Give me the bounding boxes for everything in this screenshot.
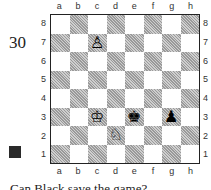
rank-label-4: 4 <box>203 93 208 103</box>
square-b2 <box>70 126 89 145</box>
file-label-g: g <box>163 1 182 11</box>
square-h1 <box>181 145 200 164</box>
square-f2 <box>144 126 163 145</box>
square-f1 <box>144 145 163 164</box>
square-h7 <box>181 34 200 53</box>
black-king-icon: ♚ <box>125 108 144 127</box>
square-h4 <box>181 89 200 108</box>
square-c4 <box>88 89 107 108</box>
square-a6 <box>51 52 70 71</box>
square-d3 <box>107 108 126 127</box>
square-e8 <box>125 15 144 34</box>
square-e4 <box>125 89 144 108</box>
file-label-a: a <box>50 166 69 176</box>
file-label-e: e <box>125 1 144 11</box>
file-label-h: h <box>181 166 200 176</box>
black-pawn-icon: ♟ <box>162 108 181 127</box>
square-e6 <box>125 52 144 71</box>
square-g8 <box>162 15 181 34</box>
square-f6 <box>144 52 163 71</box>
square-b8 <box>70 15 89 34</box>
square-b5 <box>70 71 89 90</box>
square-h8 <box>181 15 200 34</box>
square-b7 <box>70 34 89 53</box>
rank-label-2: 2 <box>203 131 208 141</box>
square-h3 <box>181 108 200 127</box>
file-label-g: g <box>163 166 182 176</box>
square-f8 <box>144 15 163 34</box>
square-d6 <box>107 52 126 71</box>
rank-label-8: 8 <box>41 18 46 28</box>
rank-label-7: 7 <box>41 37 46 47</box>
square-a2 <box>51 126 70 145</box>
square-d5 <box>107 71 126 90</box>
file-label-f: f <box>144 1 163 11</box>
file-label-c: c <box>88 166 107 176</box>
white-pawn-icon: ♙ <box>88 34 107 53</box>
square-g5 <box>162 71 181 90</box>
file-label-a: a <box>50 1 69 11</box>
square-c5 <box>88 71 107 90</box>
square-c7: ♙ <box>88 34 107 53</box>
square-f4 <box>144 89 163 108</box>
square-e7 <box>125 34 144 53</box>
square-b6 <box>70 52 89 71</box>
square-e2 <box>125 126 144 145</box>
square-d7 <box>107 34 126 53</box>
square-d1 <box>107 145 126 164</box>
square-c3: ♔ <box>88 108 107 127</box>
white-king-icon: ♔ <box>88 108 107 127</box>
square-h2 <box>181 126 200 145</box>
square-b3 <box>70 108 89 127</box>
square-d2: ♘ <box>107 126 126 145</box>
square-e3: ♚ <box>125 108 144 127</box>
rank-label-5: 5 <box>41 74 46 84</box>
square-b4 <box>70 89 89 108</box>
rank-label-3: 3 <box>41 112 46 122</box>
square-c1 <box>88 145 107 164</box>
square-c2 <box>88 126 107 145</box>
rank-label-6: 6 <box>41 56 46 66</box>
square-a7 <box>51 34 70 53</box>
square-h5 <box>181 71 200 90</box>
file-label-f: f <box>144 166 163 176</box>
square-e5 <box>125 71 144 90</box>
square-d8 <box>107 15 126 34</box>
square-a8 <box>51 15 70 34</box>
square-f5 <box>144 71 163 90</box>
rank-label-4: 4 <box>41 93 46 103</box>
square-f3 <box>144 108 163 127</box>
rank-label-6: 6 <box>203 56 208 66</box>
square-a3 <box>51 108 70 127</box>
file-label-b: b <box>69 166 88 176</box>
square-g4 <box>162 89 181 108</box>
rank-label-2: 2 <box>41 131 46 141</box>
chess-board: ♙♔♚♟♘ <box>50 14 200 164</box>
rank-label-5: 5 <box>203 74 208 84</box>
square-d4 <box>107 89 126 108</box>
square-g1 <box>162 145 181 164</box>
white-knight-icon: ♘ <box>107 126 126 145</box>
square-c8 <box>88 15 107 34</box>
square-e1 <box>125 145 144 164</box>
square-g2 <box>162 126 181 145</box>
diagram-number: 30 <box>9 33 26 53</box>
rank-label-1: 1 <box>203 149 208 159</box>
square-b1 <box>70 145 89 164</box>
square-a5 <box>51 71 70 90</box>
square-g3: ♟ <box>162 108 181 127</box>
file-label-d: d <box>106 166 125 176</box>
black-to-move-icon <box>9 146 21 158</box>
rank-label-3: 3 <box>203 112 208 122</box>
square-g7 <box>162 34 181 53</box>
file-label-e: e <box>125 166 144 176</box>
file-label-c: c <box>88 1 107 11</box>
square-h6 <box>181 52 200 71</box>
rank-label-7: 7 <box>203 37 208 47</box>
file-label-b: b <box>69 1 88 11</box>
square-a1 <box>51 145 70 164</box>
square-f7 <box>144 34 163 53</box>
rank-label-8: 8 <box>203 18 208 28</box>
square-a4 <box>51 89 70 108</box>
rank-label-1: 1 <box>41 149 46 159</box>
